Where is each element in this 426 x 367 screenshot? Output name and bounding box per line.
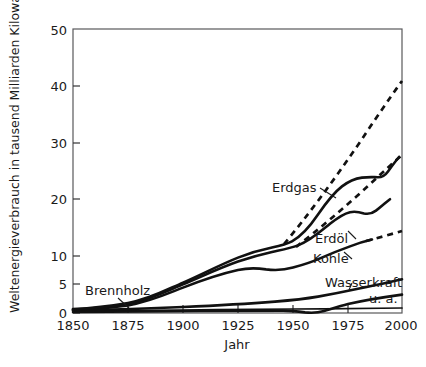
annotation-ua: u. a. — [369, 291, 398, 306]
leader-erdoel — [348, 231, 356, 239]
y-tick-label-10: 10 — [50, 249, 67, 264]
x-tick-label-1850: 1850 — [56, 318, 89, 333]
x-axis-title: Jahr — [223, 337, 250, 352]
annotation-wasserkraft: Wasserkraft — [325, 275, 402, 290]
y-tick-label-50: 50 — [50, 23, 67, 38]
annotation-brennholz: Brennholz — [85, 283, 150, 298]
y-tick-label-30: 30 — [50, 136, 67, 151]
chart-canvas: 0 5 10 20 30 40 50 1850 1875 1900 1925 1… — [0, 0, 426, 367]
x-tick-label-1875: 1875 — [111, 318, 144, 333]
annotation-erdoel: Erdöl — [315, 231, 348, 246]
x-tick-label-1975: 1975 — [331, 318, 364, 333]
annotation-erdgas: Erdgas — [272, 180, 317, 195]
x-tick-label-1950: 1950 — [276, 318, 309, 333]
x-tick-label-1925: 1925 — [221, 318, 254, 333]
chart-figure: 0 5 10 20 30 40 50 1850 1875 1900 1925 1… — [0, 0, 426, 367]
y-tick-label-5: 5 — [59, 277, 67, 292]
annotation-kohle: Kohle — [313, 251, 349, 266]
x-tick-label-1900: 1900 — [166, 318, 199, 333]
y-tick-label-40: 40 — [50, 79, 67, 94]
x-tick-label-2000: 2000 — [384, 318, 417, 333]
y-axis-ticks — [73, 86, 80, 313]
series-projection-kohle — [366, 231, 402, 241]
series-projection-erdgas — [284, 81, 402, 244]
y-axis-title: Weltenergieverbrauch in tausend Milliard… — [7, 0, 22, 313]
y-tick-label-20: 20 — [50, 192, 67, 207]
